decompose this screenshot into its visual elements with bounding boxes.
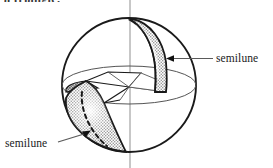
lower-semilune-highlight bbox=[66, 81, 127, 152]
right-leader-arrowhead bbox=[166, 55, 174, 62]
left-leader-line bbox=[58, 134, 84, 142]
wedge-drop-line bbox=[120, 87, 129, 100]
semilune-label-right: semilune bbox=[216, 52, 258, 64]
lower-semilune-region bbox=[66, 81, 129, 152]
left-label-leader bbox=[58, 131, 91, 143]
semilune-label-left: semilune bbox=[5, 137, 47, 149]
